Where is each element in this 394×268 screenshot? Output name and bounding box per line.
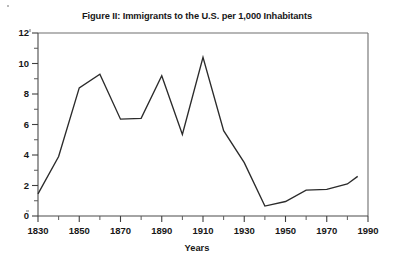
x-axis-ticks xyxy=(38,216,368,222)
x-axis-title: Years xyxy=(0,243,394,253)
tick-label: 12 xyxy=(18,27,29,38)
x-axis-tick-labels: 183018501870189019101930195019701990 xyxy=(27,225,378,236)
tick-label: 1830 xyxy=(27,225,48,236)
tick-label: 1910 xyxy=(192,225,213,236)
tick-label: 1930 xyxy=(234,225,255,236)
line-chart-plot: 024681012 183018501870189019101930195019… xyxy=(0,0,394,268)
tick-label: 10 xyxy=(18,58,29,69)
y-axis-ticks xyxy=(32,33,38,216)
figure-container: Figure II: Immigrants to the U.S. per 1,… xyxy=(0,0,394,268)
tick-label: 0 xyxy=(24,210,29,221)
tick-label: 1870 xyxy=(110,225,131,236)
scan-speck xyxy=(29,29,31,32)
scan-speck xyxy=(7,5,9,7)
tick-label: 6 xyxy=(24,119,29,130)
tick-label: 4 xyxy=(24,149,30,160)
tick-label: 1950 xyxy=(275,225,296,236)
data-series-line xyxy=(38,57,358,206)
tick-label: 8 xyxy=(24,88,29,99)
scan-speck xyxy=(26,210,29,212)
tick-label: 1990 xyxy=(357,225,378,236)
tick-label: 1970 xyxy=(316,225,337,236)
tick-label: 1890 xyxy=(151,225,172,236)
y-axis-tick-labels: 024681012 xyxy=(18,27,29,221)
tick-label: 1850 xyxy=(69,225,90,236)
tick-label: 2 xyxy=(24,180,29,191)
plot-frame xyxy=(38,33,368,216)
